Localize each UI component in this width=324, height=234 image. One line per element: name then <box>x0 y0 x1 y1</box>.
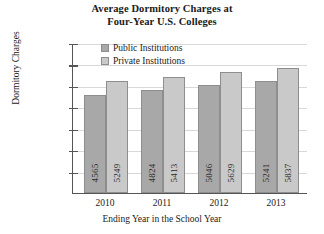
bar-group: 50465629 <box>198 44 242 193</box>
x-tick-label: 2011 <box>132 198 192 208</box>
bar-private-2010: 5249 <box>106 81 128 193</box>
bar-value-label: 5413 <box>169 163 179 182</box>
bar-public-2010: 4565 <box>84 95 106 193</box>
chart-title: Average Dormitory Charges at Four-Year U… <box>0 3 324 28</box>
y-axis-label: Dormitory Charges <box>11 3 21 133</box>
legend-swatch-public <box>101 44 109 52</box>
x-tick-label: 2013 <box>246 198 306 208</box>
bar-value-label: 5241 <box>261 163 271 182</box>
bar-public-2012: 5046 <box>198 85 220 193</box>
bar-public-2011: 4824 <box>141 90 163 193</box>
bar-value-label: 5837 <box>283 163 293 182</box>
legend-swatch-private <box>101 57 109 65</box>
bar-public-2013: 5241 <box>255 81 277 193</box>
bar-private-2013: 5837 <box>277 68 299 193</box>
legend-item-private: Private Institutions <box>101 55 185 66</box>
legend-label-public: Public Institutions <box>113 43 182 53</box>
legend-label-private: Private Institutions <box>113 56 185 66</box>
bar-private-2012: 5629 <box>220 72 242 193</box>
bar-chart: Average Dormitory Charges at Four-Year U… <box>0 0 324 234</box>
bar-value-label: 5046 <box>204 163 214 182</box>
bar-private-2011: 5413 <box>163 77 185 193</box>
legend: Public Institutions Private Institutions <box>101 42 185 68</box>
bar-value-label: 5629 <box>226 163 236 182</box>
bar-value-label: 4565 <box>90 163 100 182</box>
chart-title-line-2: Four-Year U.S. Colleges <box>0 16 324 29</box>
bar-group: 52415837 <box>255 44 299 193</box>
legend-item-public: Public Institutions <box>101 42 185 53</box>
x-tick-label: 2010 <box>75 198 135 208</box>
chart-title-line-1: Average Dormitory Charges at <box>0 3 324 16</box>
bar-value-label: 4824 <box>147 163 157 182</box>
x-tick-label: 2012 <box>189 198 249 208</box>
x-axis-label: Ending Year in the School Year <box>0 214 324 224</box>
bar-value-label: 5249 <box>112 163 122 182</box>
